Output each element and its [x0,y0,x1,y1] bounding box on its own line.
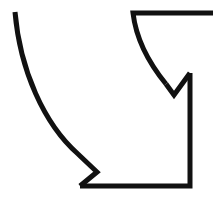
curved-arrow-outline-glyph [0,0,213,216]
drawing-canvas [0,0,213,216]
